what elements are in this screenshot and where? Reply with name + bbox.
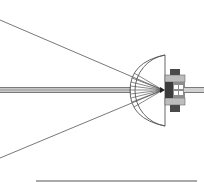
hemisphere-lens: [130, 55, 165, 126]
lens-holder: [165, 69, 185, 112]
focal-point: [160, 87, 165, 93]
lens-diagram: [0, 0, 204, 182]
lower-ray: [0, 90, 163, 158]
left-rod: [0, 87, 131, 93]
upper-ray: [0, 20, 163, 90]
right-shaft: [184, 87, 204, 93]
